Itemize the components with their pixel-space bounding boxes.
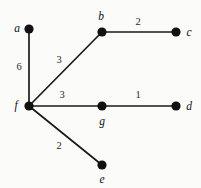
- graph-node-c: [171, 27, 180, 36]
- edge-weight-a-f: 6: [16, 62, 21, 73]
- node-label-c: c: [186, 27, 191, 39]
- edge-weight-f-b: 3: [56, 55, 61, 66]
- node-label-d: d: [186, 101, 192, 113]
- nodes-group: [24, 24, 180, 169]
- edges-group: [29, 29, 176, 165]
- node-label-g: g: [99, 116, 105, 128]
- edge-weight-g-d: 1: [135, 90, 140, 101]
- node-label-a: a: [14, 23, 20, 35]
- graph-node-a: [24, 24, 33, 33]
- edge-weight-b-c: 2: [135, 17, 140, 28]
- graph-node-f: [24, 101, 33, 110]
- graph-node-e: [97, 160, 106, 169]
- node-label-f: f: [14, 100, 17, 112]
- graph-node-g: [97, 101, 106, 110]
- graph-edge-f-e: [29, 106, 102, 165]
- node-label-e: e: [99, 174, 104, 186]
- edge-weight-f-e: 2: [56, 141, 61, 152]
- graph-node-d: [171, 101, 180, 110]
- node-label-b: b: [98, 11, 104, 23]
- graph-canvas: [0, 0, 201, 188]
- edge-weight-f-g: 3: [59, 90, 64, 101]
- graph-edge-f-b: [29, 32, 102, 106]
- graph-node-b: [97, 27, 106, 36]
- graph-figure: 632312abcdefg: [0, 0, 201, 188]
